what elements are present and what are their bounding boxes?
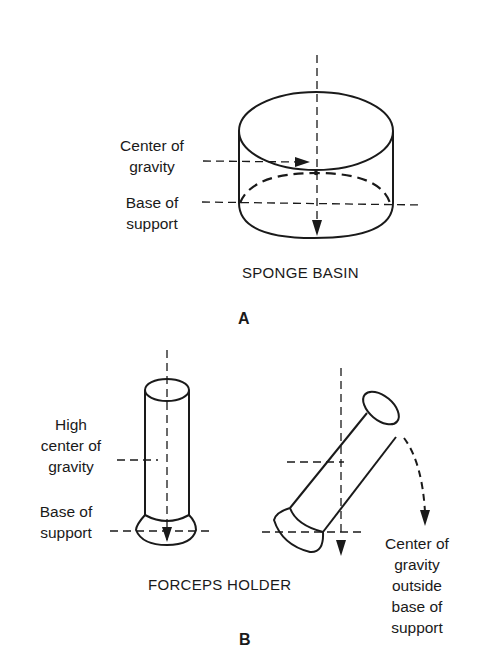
caption-forceps-holder: FORCEPS HOLDER <box>148 576 291 593</box>
label-high-center-of-gravity: High center of gravity <box>26 414 116 477</box>
label-base-of-support: Base of support <box>110 192 194 234</box>
caption-sponge-basin: SPONGE BASIN <box>242 264 359 281</box>
label-center-of-gravity: Center of gravity <box>104 135 200 177</box>
sponge-basin-figure <box>202 55 422 238</box>
arrowhead-down-icon <box>336 540 346 556</box>
arrowhead-right-icon <box>295 157 310 167</box>
forceps-holder-upright-figure <box>110 350 209 545</box>
label-base-of-support-b: Base of support <box>26 501 106 543</box>
arrowhead-down-icon <box>162 527 172 542</box>
arrowhead-down-icon <box>420 510 430 526</box>
panel-letter-a: A <box>238 310 250 328</box>
arrowhead-down-icon <box>312 220 322 236</box>
panel-letter-b: B <box>239 631 251 649</box>
forceps-holder-tilted-figure <box>262 368 425 552</box>
label-cg-outside-base: Center of gravity outside base of suppor… <box>370 533 464 638</box>
